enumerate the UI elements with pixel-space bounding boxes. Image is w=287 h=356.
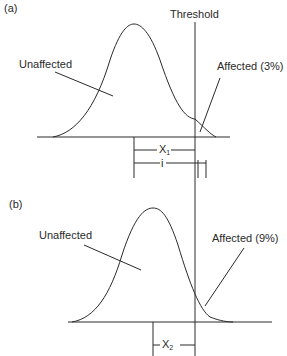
- unaffected-label-b: Unaffected: [39, 230, 92, 241]
- affected-pointer-a: [200, 78, 220, 132]
- affected-label-a: Affected (3%): [217, 61, 283, 72]
- i-label: i: [161, 158, 163, 169]
- panel-a-tag: (a): [4, 3, 17, 14]
- unaffected-pointer-b: [84, 245, 141, 270]
- x1-label: X1: [159, 144, 170, 156]
- unaffected-label-a: Unaffected: [19, 59, 72, 70]
- threshold-label: Threshold: [170, 9, 219, 20]
- affected-label-b: Affected (9%): [212, 233, 278, 244]
- panel-b-tag: (b): [9, 199, 22, 210]
- distribution-curve-a: [53, 24, 216, 137]
- affected-pointer-b: [205, 248, 244, 306]
- unaffected-pointer-a: [55, 72, 113, 96]
- distribution-curve-b: [72, 208, 233, 322]
- x2-label: X2: [162, 339, 173, 351]
- threshold-diagram: [0, 0, 287, 356]
